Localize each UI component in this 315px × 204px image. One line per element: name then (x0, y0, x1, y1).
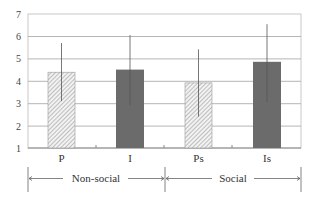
x-label-is: Is (263, 152, 271, 164)
bars (48, 62, 281, 148)
y-tick-1: 1 (16, 143, 21, 154)
y-tick-2: 2 (16, 121, 21, 132)
x-label-ps: Ps (193, 152, 203, 164)
group-label-nonsocial: Non-social (72, 172, 120, 184)
error-bars (62, 24, 268, 116)
group-brackets (28, 167, 301, 192)
bar-chart: 1 2 3 4 5 6 7 P I Ps Is (0, 0, 315, 204)
group-label-social: Social (219, 172, 247, 184)
y-tick-4: 4 (16, 76, 21, 87)
y-axis-labels: 1 2 3 4 5 6 7 (16, 9, 21, 154)
y-tick-6: 6 (16, 31, 21, 42)
y-tick-3: 3 (16, 98, 21, 109)
y-tick-5: 5 (16, 53, 21, 64)
x-label-i: I (128, 152, 132, 164)
x-axis-labels: P I Ps Is (58, 152, 271, 164)
y-tick-7: 7 (16, 9, 21, 20)
x-label-p: P (58, 152, 64, 164)
